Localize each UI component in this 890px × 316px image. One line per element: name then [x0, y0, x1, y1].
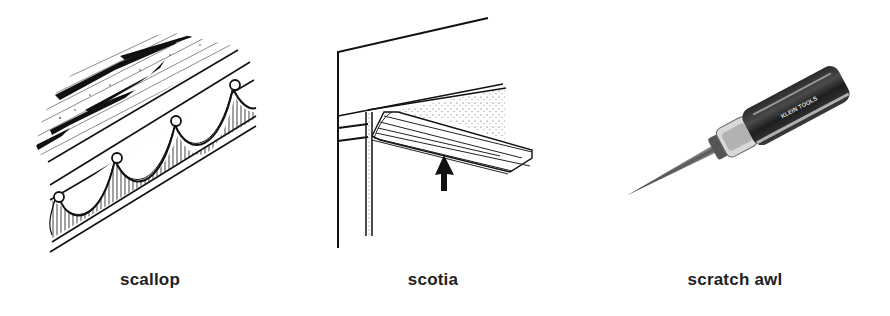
scallop-molding-illustration: [0, 0, 300, 270]
caption-scotia: scotia: [288, 270, 578, 290]
caption-scratch-awl: scratch awl: [585, 270, 885, 290]
figure-scotia: scotia: [300, 0, 590, 316]
figure-scratch-awl: KLEIN TOOLS scratch awl: [590, 0, 890, 316]
pointer-arrow-icon: [435, 155, 454, 191]
scratch-awl-photo: KLEIN TOOLS: [590, 0, 890, 270]
figure-scallop: scallop: [0, 0, 300, 316]
scotia-molding-illustration: [300, 0, 590, 270]
caption-scallop: scallop: [0, 270, 300, 290]
